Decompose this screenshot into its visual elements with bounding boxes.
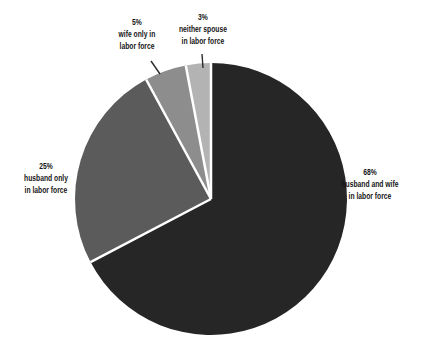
slice-label-husband-and-wife: 68% husband and wife in labor force xyxy=(329,166,412,202)
slice-pct-wife-only: 5% xyxy=(96,16,179,28)
slice-label-wife-only: 5% wife only in labor force xyxy=(96,16,179,52)
pie-chart-figure: 3% neither spouse in labor force 5% wife… xyxy=(0,0,422,344)
slice-pct-husband-only: 25% xyxy=(5,160,88,172)
slice-label-line: wife only in xyxy=(96,28,179,40)
slice-label-line: in labor force xyxy=(5,184,88,196)
slice-pct-husband-and-wife: 68% xyxy=(329,166,412,178)
slice-label-line: husband only xyxy=(5,172,88,184)
leader-line-wife-only xyxy=(151,61,160,74)
slice-label-line: labor force xyxy=(96,40,179,52)
leader-line-neither-spouse xyxy=(202,54,203,68)
slice-label-line: husband and wife xyxy=(329,178,412,190)
slice-label-husband-only: 25% husband only in labor force xyxy=(5,160,88,196)
slice-label-line: in labor force xyxy=(329,190,412,202)
